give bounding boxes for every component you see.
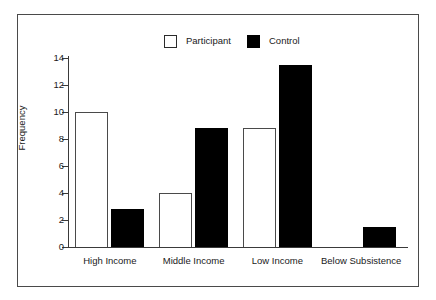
y-axis-tick-label: 14 — [53, 53, 64, 63]
y-axis-tick-label: 12 — [53, 80, 64, 90]
y-axis-tick-label: 0 — [59, 242, 64, 252]
legend-entry-participant: Participant — [164, 31, 231, 51]
y-axis-tick-label: 6 — [59, 161, 64, 171]
y-axis-title: Frequency — [17, 106, 27, 151]
bar-control-low-income — [279, 65, 312, 247]
figure-canvas: Participant Control Frequency 0246810121… — [0, 0, 436, 300]
x-axis-category-label: Middle Income — [163, 256, 225, 266]
x-axis-line — [68, 247, 408, 248]
x-axis-category-label: Low Income — [252, 256, 303, 266]
bar-control-middle-income — [195, 128, 228, 247]
legend-label-participant: Participant — [186, 36, 231, 46]
bar-control-high-income — [111, 209, 144, 247]
plot-area: 02468101214 — [68, 58, 403, 247]
y-axis-tick-label: 2 — [59, 215, 64, 225]
legend-entry-control: Control — [247, 31, 300, 51]
chart-legend: Participant Control — [140, 31, 340, 51]
legend-label-control: Control — [269, 36, 300, 46]
y-axis-tick-label: 8 — [59, 134, 64, 144]
y-axis-tick-label: 10 — [53, 107, 64, 117]
bar-participant-middle-income — [159, 193, 192, 247]
bar-control-below-subsistence — [363, 227, 396, 247]
x-axis-category-label: Below Subsistence — [321, 256, 401, 266]
legend-swatch-filled-square-icon — [247, 35, 260, 48]
legend-swatch-hollow-square-icon — [164, 35, 177, 48]
bar-participant-high-income — [75, 112, 108, 247]
bar-participant-low-income — [243, 128, 276, 247]
y-axis-tick-label: 4 — [59, 188, 64, 198]
x-axis-category-label: High Income — [83, 256, 136, 266]
